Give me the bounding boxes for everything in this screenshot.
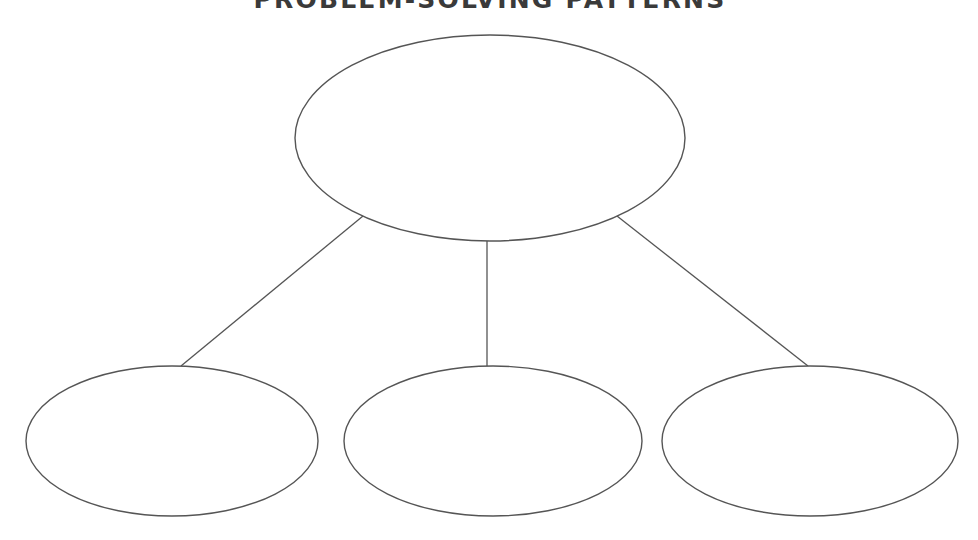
nodes bbox=[26, 35, 958, 516]
root-node[interactable] bbox=[295, 35, 685, 241]
connector-left bbox=[181, 216, 363, 366]
connector-right bbox=[617, 216, 808, 366]
child-node-middle[interactable] bbox=[344, 366, 642, 516]
child-node-left[interactable] bbox=[26, 366, 318, 516]
child-node-right[interactable] bbox=[662, 366, 958, 516]
tree-diagram bbox=[0, 0, 978, 540]
